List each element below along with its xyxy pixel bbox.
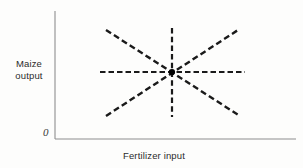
- center-point-marker: [169, 69, 175, 75]
- origin-label: 0: [43, 126, 49, 138]
- plot-area: [0, 0, 303, 168]
- y-axis-title: Maize output: [6, 58, 52, 81]
- x-axis-title: Fertilizer input: [98, 150, 210, 162]
- fertilizer-response-figure: Maize output Fertilizer input 0: [0, 0, 303, 168]
